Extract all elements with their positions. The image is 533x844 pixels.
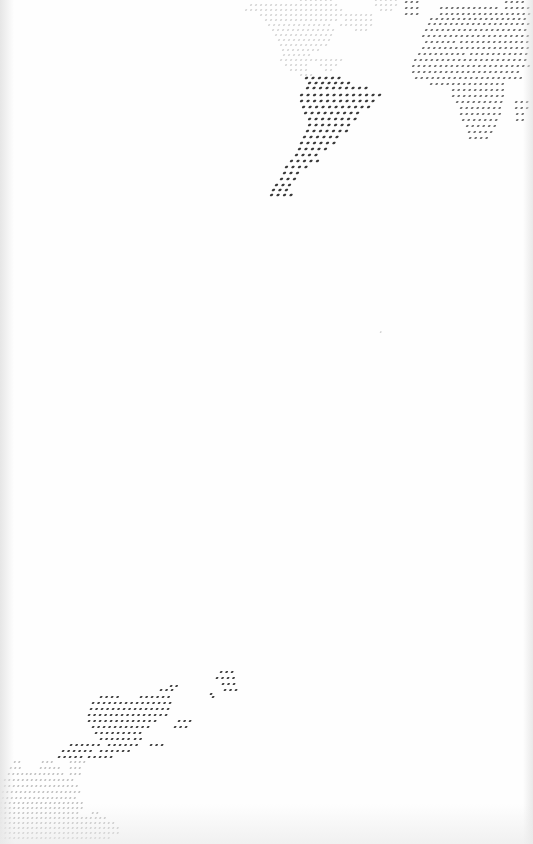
asia-bottom-dots xyxy=(57,671,237,758)
isolated-dot xyxy=(380,331,382,332)
paper-edge-shadow-bottom xyxy=(0,804,533,844)
paper-edge-shadow-left xyxy=(0,0,14,844)
north-america-dots xyxy=(245,0,398,76)
south-america-dots xyxy=(269,77,381,196)
dotted-world-map xyxy=(0,0,533,844)
world-map-page xyxy=(0,0,533,844)
europe-africa-dots xyxy=(405,1,531,139)
paper-edge-shadow-right xyxy=(523,0,533,844)
